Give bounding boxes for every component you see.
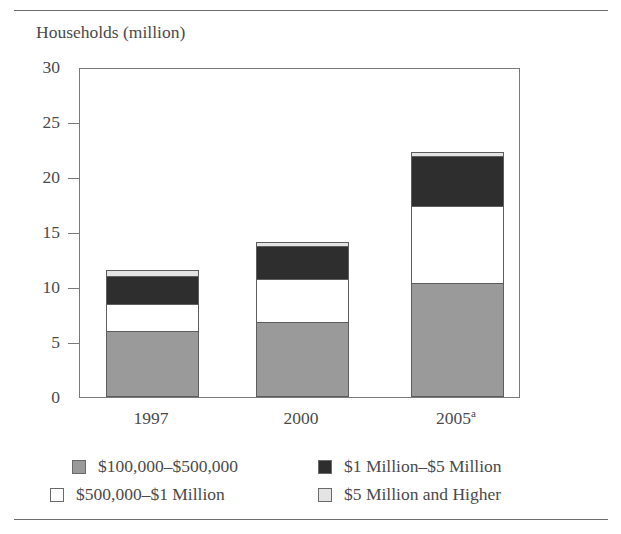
chart-legend: $100,000–$500,000$500,000–$1 Million$1 M… <box>0 456 621 512</box>
bar-segment <box>411 156 504 207</box>
legend-item-label: $1 Million–$5 Million <box>344 456 502 477</box>
bar-segment <box>256 246 349 280</box>
legend-item-label: $100,000–$500,000 <box>98 456 238 477</box>
y-axis-tick-label: 5 <box>0 334 60 352</box>
y-axis-tick-label: 10 <box>0 279 60 297</box>
y-axis-tick-label: 15 <box>0 224 60 242</box>
bar-segment <box>411 283 504 397</box>
bar-segment <box>256 279 349 323</box>
bar-segment <box>106 331 199 397</box>
bar-group-2000 <box>256 67 349 397</box>
legend-swatch-icon <box>318 460 332 474</box>
legend-item: $1 Million–$5 Million <box>318 456 502 477</box>
y-axis-tick-label: 25 <box>0 114 60 132</box>
bar-segment <box>106 276 199 305</box>
x-axis-label-footnote-marker: a <box>471 407 476 419</box>
x-axis-label-1997: 1997 <box>71 408 231 429</box>
legend-item-label: $5 Million and Higher <box>344 484 501 505</box>
x-axis-label-text: 2000 <box>284 408 319 428</box>
legend-item-label: $500,000–$1 Million <box>76 484 225 505</box>
bottom-rule <box>14 519 608 520</box>
legend-swatch-icon <box>72 460 86 474</box>
x-axis-label-text: 2005 <box>436 408 471 428</box>
bar-group-1997 <box>106 67 199 397</box>
x-axis-label-2005: 2005a <box>376 408 536 429</box>
bar-segment <box>106 304 199 333</box>
figure-stacked-bar-chart: Households (million) 051015202530 199720… <box>0 0 621 534</box>
bar-group-2005 <box>411 67 504 397</box>
x-axis-label-2000: 2000 <box>221 408 381 429</box>
y-axis-tick-label: 20 <box>0 169 60 187</box>
legend-item: $100,000–$500,000 <box>72 456 238 477</box>
legend-item: $500,000–$1 Million <box>50 484 225 505</box>
bar-segment <box>256 322 349 397</box>
legend-swatch-icon <box>50 488 64 502</box>
y-axis-tick-label: 30 <box>0 59 60 77</box>
x-axis-label-text: 1997 <box>134 408 169 428</box>
y-axis-tick-label: 0 <box>0 389 60 407</box>
y-axis-title: Households (million) <box>36 22 185 43</box>
legend-item: $5 Million and Higher <box>318 484 501 505</box>
top-rule <box>14 10 608 11</box>
plot-area <box>79 68 520 398</box>
clipped-heading <box>170 0 450 6</box>
bar-segment <box>411 206 504 284</box>
legend-swatch-icon <box>318 488 332 502</box>
